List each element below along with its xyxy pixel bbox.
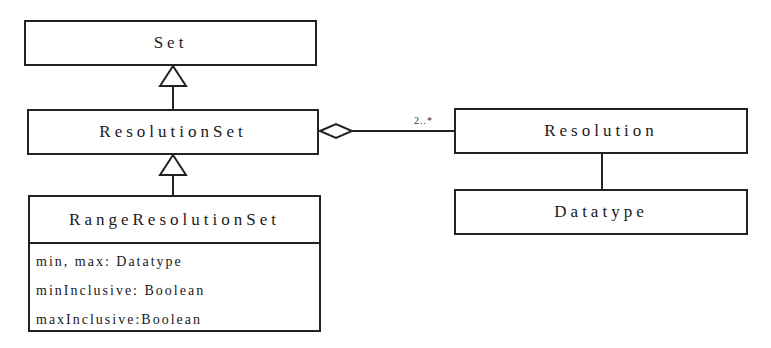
class-range-resolution-set[interactable]: RangeResolutionSet min, max: Datatype mi… (28, 195, 321, 332)
attribute-max-inclusive: maxInclusive:Boolean (36, 306, 319, 335)
attribute-list: min, max: Datatype minInclusive: Boolean… (30, 244, 319, 335)
class-set[interactable]: Set (24, 20, 317, 66)
generalization-arrow-resolutionset-to-set (160, 66, 186, 110)
class-name: RangeResolutionSet (30, 197, 319, 244)
aggregation-diamond-icon (320, 124, 455, 138)
class-name: ResolutionSet (29, 111, 317, 153)
class-resolution-set[interactable]: ResolutionSet (27, 109, 319, 155)
attribute-min-max: min, max: Datatype (36, 248, 319, 277)
multiplicity-label: 2..* (414, 115, 433, 126)
class-name: Set (26, 22, 315, 64)
class-name: Resolution (456, 110, 746, 152)
attribute-min-inclusive: minInclusive: Boolean (36, 277, 319, 306)
generalization-arrow-rangeresolutionset-to-resolutionset (160, 155, 186, 196)
class-resolution[interactable]: Resolution (454, 108, 748, 154)
class-datatype[interactable]: Datatype (454, 189, 748, 235)
class-name: Datatype (456, 191, 746, 233)
